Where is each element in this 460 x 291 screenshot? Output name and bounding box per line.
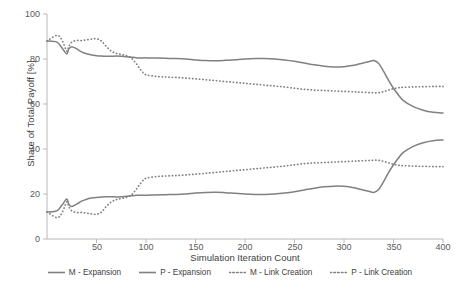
series-line-m-link-creation (47, 35, 443, 92)
series-line-p-link-creation (47, 160, 443, 217)
legend-item-m-expansion: M - Expansion (48, 268, 121, 277)
legend-swatch-solid (139, 268, 156, 277)
legend-label-p-expansion: P - Expansion (160, 268, 211, 277)
tick-marks (43, 14, 443, 243)
legend-swatch-dotted (330, 268, 347, 277)
series-line-p-expansion (47, 140, 443, 212)
legend-swatch-solid (48, 268, 65, 277)
series-lines (47, 35, 443, 217)
legend-swatch-dotted (229, 268, 246, 277)
legend-item-m-link-creation: M - Link Creation (229, 268, 312, 277)
legend-label-m-link-creation: M - Link Creation (250, 268, 312, 277)
legend-label-p-link-creation: P - Link Creation (351, 268, 412, 277)
legend-item-p-link-creation: P - Link Creation (330, 268, 412, 277)
legend-label-m-expansion: M - Expansion (69, 268, 121, 277)
series-line-m-expansion (47, 41, 443, 113)
legend-item-p-expansion: P - Expansion (139, 268, 211, 277)
plot-area (0, 0, 460, 291)
chart-legend: M - Expansion P - Expansion M - Link Cre… (0, 268, 460, 277)
chart-figure: Share of Total Payoff [%] 100 80 60 40 2… (0, 0, 460, 291)
